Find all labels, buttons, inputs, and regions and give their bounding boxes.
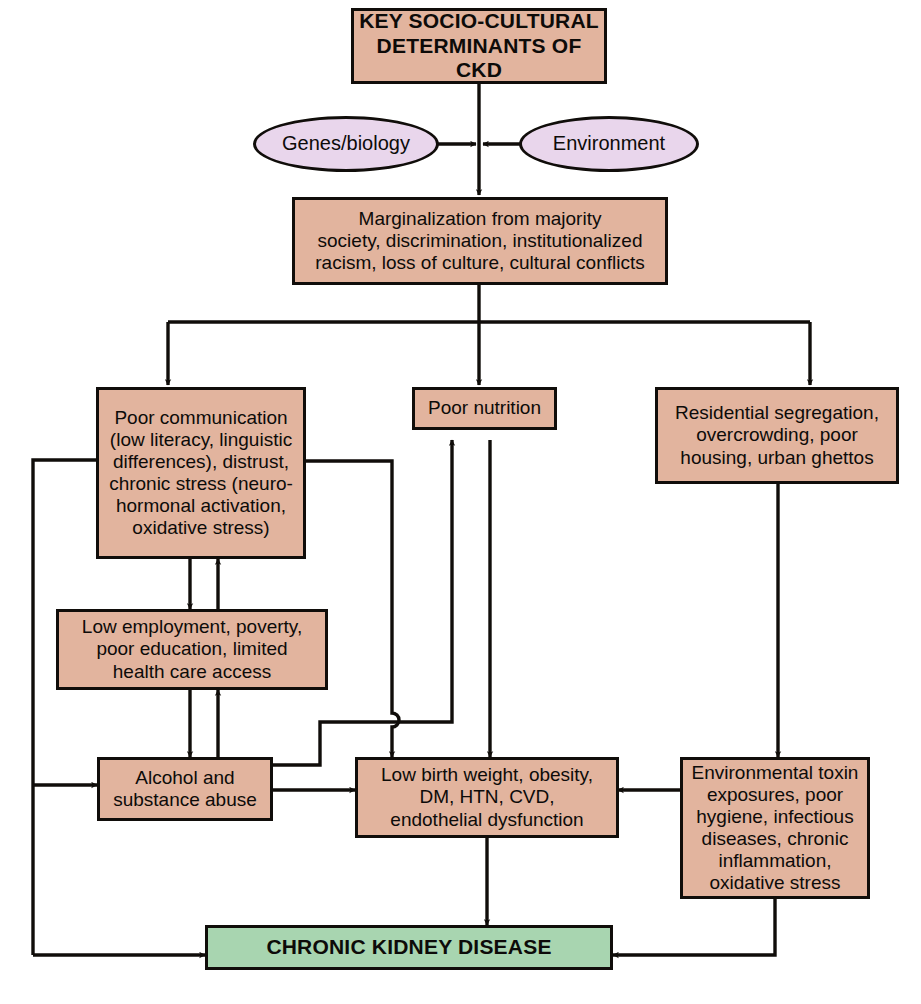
node-label: Residential segregation, overcrowding, p… — [658, 402, 896, 468]
node-chronic-kidney-disease[interactable]: CHRONIC KIDNEY DISEASE — [205, 925, 613, 970]
node-label: Environmental toxin exposures, poor hygi… — [683, 762, 867, 894]
node-label: Genes/biology — [256, 132, 436, 155]
node-marginalization[interactable]: Marginalization from majority society, d… — [292, 197, 668, 285]
node-alcohol-substance-abuse[interactable]: Alcohol and substance abuse — [97, 757, 273, 821]
node-poor-communication[interactable]: Poor communication (low literacy, lingui… — [96, 387, 306, 559]
node-residential-segregation[interactable]: Residential segregation, overcrowding, p… — [655, 387, 899, 484]
node-label: Low birth weight, obesity, DM, HTN, CVD,… — [358, 764, 616, 830]
node-environmental-toxin[interactable]: Environmental toxin exposures, poor hygi… — [680, 757, 870, 899]
node-label: CHRONIC KIDNEY DISEASE — [208, 935, 610, 959]
node-genes-biology[interactable]: Genes/biology — [253, 116, 439, 172]
node-label: Low employment, poverty, poor education,… — [59, 616, 325, 682]
diagram-canvas: KEY SOCIO-CULTURAL DETERMINANTS OF CKD G… — [0, 0, 921, 1004]
node-label: Marginalization from majority society, d… — [295, 208, 665, 274]
node-low-employment[interactable]: Low employment, poverty, poor education,… — [56, 609, 328, 690]
node-label: Poor nutrition — [415, 397, 554, 419]
node-label: Poor communication (low literacy, lingui… — [99, 407, 303, 539]
node-environment[interactable]: Environment — [519, 116, 699, 172]
node-label: Alcohol and substance abuse — [100, 767, 270, 811]
node-label: KEY SOCIO-CULTURAL DETERMINANTS OF CKD — [354, 9, 604, 82]
node-key-determinants-header[interactable]: KEY SOCIO-CULTURAL DETERMINANTS OF CKD — [351, 8, 607, 84]
node-low-birth-weight[interactable]: Low birth weight, obesity, DM, HTN, CVD,… — [355, 757, 619, 838]
node-poor-nutrition[interactable]: Poor nutrition — [412, 387, 557, 430]
node-label: Environment — [522, 132, 696, 155]
